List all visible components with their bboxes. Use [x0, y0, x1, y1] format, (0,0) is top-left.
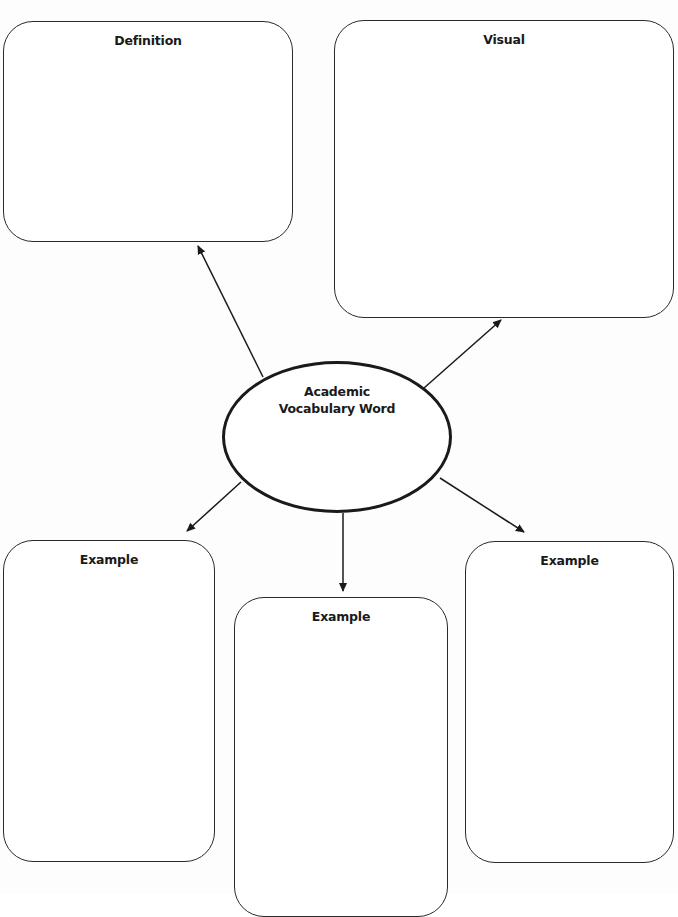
- example-center-writing-area[interactable]: [245, 632, 437, 906]
- example-center-title: Example: [235, 609, 447, 624]
- definition-writing-area[interactable]: [14, 56, 282, 231]
- example-box-right[interactable]: Example: [465, 541, 674, 863]
- visual-box[interactable]: Visual: [334, 20, 674, 318]
- example-box-left[interactable]: Example: [3, 540, 215, 862]
- arrow-to-example-right: [440, 478, 524, 532]
- arrow-to-example-left: [187, 482, 241, 531]
- center-label-line2: Vocabulary Word: [225, 400, 449, 417]
- definition-title: Definition: [4, 33, 292, 48]
- arrow-to-visual: [424, 320, 501, 388]
- center-label-line1: Academic: [225, 383, 449, 400]
- example-box-center[interactable]: Example: [234, 597, 448, 917]
- definition-box[interactable]: Definition: [3, 21, 293, 242]
- example-left-title: Example: [4, 552, 214, 567]
- arrow-to-definition: [198, 246, 263, 377]
- center-node-label: Academic Vocabulary Word: [225, 383, 449, 417]
- visual-title: Visual: [335, 32, 673, 47]
- example-right-title: Example: [466, 553, 673, 568]
- example-left-writing-area[interactable]: [14, 575, 204, 851]
- visual-drawing-area[interactable]: [345, 55, 663, 307]
- example-right-writing-area[interactable]: [476, 576, 663, 852]
- academic-vocabulary-word-node[interactable]: Academic Vocabulary Word: [222, 361, 452, 513]
